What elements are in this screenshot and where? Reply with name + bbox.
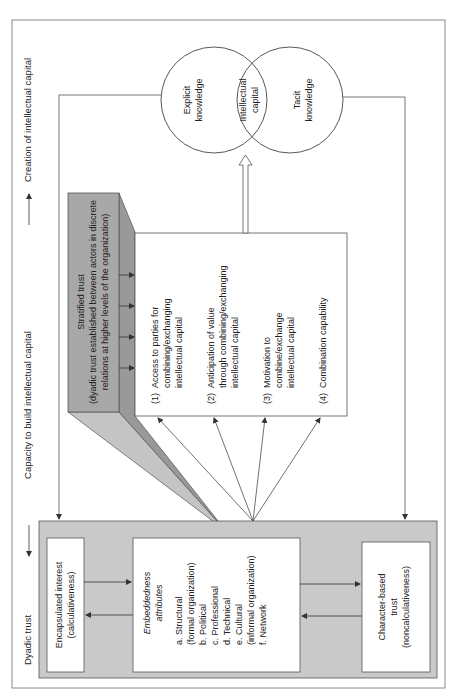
svg-text:Intellectual: Intellectual [238, 78, 248, 121]
svg-text:a. Structural: a. Structural [174, 596, 184, 645]
svg-text:intellectual capital: intellectual capital [174, 317, 184, 388]
svg-text:(noncalculativeness): (noncalculativeness) [401, 566, 411, 648]
svg-text:relations at higher levels of: relations at higher levels of the organi… [100, 214, 110, 391]
svg-text:through combining/exchanging: through combining/exchanging [218, 265, 228, 388]
svg-text:capital: capital [250, 87, 260, 113]
svg-text:f. Network: f. Network [258, 604, 268, 645]
svg-text:Stratified trust: Stratified trust [76, 274, 86, 330]
svg-text:Access to parties for: Access to parties for [150, 306, 160, 388]
feedback-line-tacit [343, 97, 405, 519]
stage-creation: Creation of intellectual capital [22, 58, 33, 182]
svg-text:(1): (1) [150, 393, 160, 404]
svg-text:attributes: attributes [154, 584, 164, 622]
svg-text:Character-based: Character-based [377, 573, 387, 640]
stage-header: Dyadic trust Capacity to build intellect… [22, 58, 33, 665]
svg-text:intellectual capital: intellectual capital [230, 317, 240, 388]
svg-text:d. Technical: d. Technical [222, 598, 232, 645]
svg-text:(formal organization): (formal organization) [186, 562, 196, 645]
svg-text:combine/exchange: combine/exchange [274, 312, 284, 388]
venn-diagram: Explicit knowledge Intellectual capital … [161, 47, 343, 153]
stage-capacity: Capacity to build intellectual capital [22, 331, 33, 479]
svg-text:Encapsulated interest: Encapsulated interest [54, 561, 64, 648]
svg-text:c. Professional: c. Professional [210, 586, 220, 645]
svg-text:e. Cultural: e. Cultural [234, 604, 244, 645]
svg-text:knowledge: knowledge [194, 78, 204, 121]
hollow-arrow-to-venn [239, 155, 252, 233]
stratified-wedge-light [68, 412, 226, 531]
svg-text:(4): (4) [318, 393, 328, 404]
svg-text:trust: trust [389, 598, 399, 616]
fan-arrows [158, 418, 320, 521]
svg-text:knowledge: knowledge [304, 78, 314, 121]
stage-dyadic-trust: Dyadic trust [22, 615, 33, 666]
svg-text:b. Political: b. Political [198, 604, 208, 645]
svg-text:Explicit: Explicit [182, 85, 192, 114]
svg-text:Motivation to: Motivation to [262, 337, 272, 388]
svg-text:Anticipation of value: Anticipation of value [206, 307, 216, 388]
svg-text:combining/exchanging: combining/exchanging [162, 298, 172, 388]
diagram-canvas: Dyadic trust Capacity to build intellect… [0, 0, 456, 693]
svg-text:(2): (2) [206, 393, 216, 404]
svg-text:(informal organization): (informal organization) [246, 555, 256, 645]
svg-text:Embeddedness: Embeddedness [142, 571, 152, 634]
svg-text:(dyadic trust established betw: (dyadic trust established between actors… [88, 200, 98, 404]
svg-text:(calculativeness): (calculativeness) [66, 571, 76, 638]
svg-text:intellectual capital: intellectual capital [286, 317, 296, 388]
svg-text:Tacit: Tacit [292, 90, 302, 109]
svg-text:Combination capability: Combination capability [318, 297, 328, 388]
svg-text:(3): (3) [262, 393, 272, 404]
